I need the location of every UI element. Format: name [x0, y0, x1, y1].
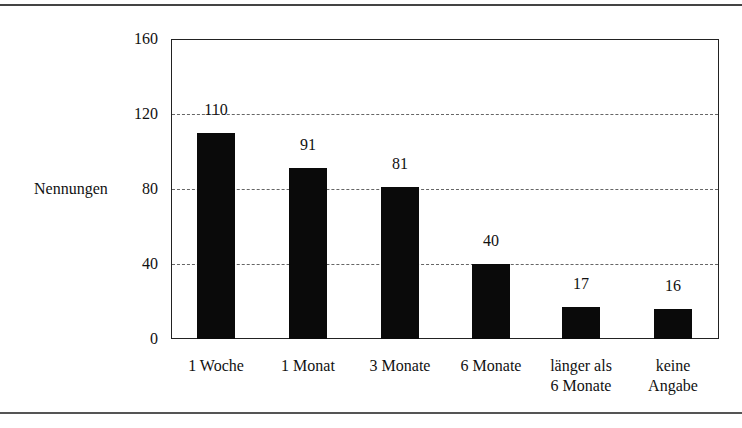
- bar: [562, 307, 600, 339]
- bar-value-label: 40: [451, 233, 531, 249]
- x-tick-label: 1 Monat: [258, 356, 358, 396]
- y-tick-80: 80: [118, 181, 158, 197]
- bar-value-label: 91: [268, 137, 348, 153]
- plot-frame: [171, 39, 719, 339]
- top-rule: [0, 4, 742, 6]
- x-tick-label: keineAngabe: [623, 356, 723, 396]
- y-tick-120: 120: [118, 106, 158, 122]
- bar-value-label: 81: [360, 156, 440, 172]
- x-tick-label: 6 Monate: [441, 356, 541, 396]
- y-tick-160: 160: [118, 31, 158, 47]
- x-tick-label: länger als6 Monate: [531, 356, 631, 396]
- bar: [472, 264, 510, 339]
- bar-value-label: 16: [633, 278, 713, 294]
- y-tick-0: 0: [118, 331, 158, 347]
- x-tick-label: 3 Monate: [350, 356, 450, 396]
- bar: [381, 187, 419, 339]
- bar: [197, 133, 235, 339]
- x-tick-label: 1 Woche: [166, 356, 266, 396]
- bar: [654, 309, 692, 339]
- bottom-rule: [0, 412, 742, 414]
- y-axis-title: Nennungen: [34, 180, 108, 198]
- y-tick-40: 40: [118, 256, 158, 272]
- bar-value-label: 110: [176, 102, 256, 118]
- bar: [289, 168, 327, 339]
- bar-value-label: 17: [541, 276, 621, 292]
